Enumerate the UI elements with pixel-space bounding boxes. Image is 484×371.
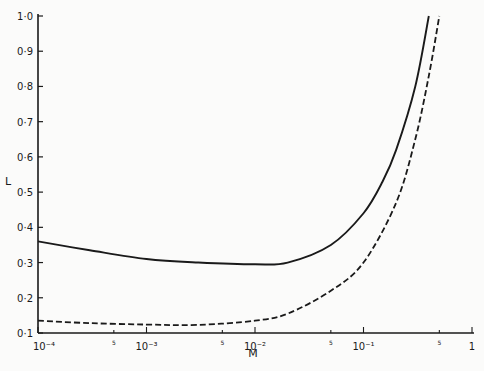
x-tick-label: 5	[437, 339, 441, 346]
line-chart: 0·10·20·30·40·50·60·70·80·91·0 10⁻⁴510⁻³…	[0, 0, 484, 371]
solid-curve	[38, 16, 429, 265]
curves	[38, 16, 439, 325]
y-axis-label: L	[5, 175, 12, 188]
y-tick-label: 1·0	[17, 11, 33, 22]
y-tick-label: 0·3	[17, 258, 33, 269]
axes	[38, 14, 474, 333]
x-tick-label: 1	[469, 341, 475, 352]
x-tick-label: 5	[112, 339, 116, 346]
dashed-curve	[38, 16, 439, 325]
y-tick-label: 0·7	[17, 117, 33, 128]
y-tick-label: 0·1	[17, 328, 33, 339]
y-tick-label: 0·2	[17, 293, 33, 304]
y-tick-label: 0·6	[17, 152, 33, 163]
x-tick-label: 10⁻⁴	[33, 341, 55, 352]
y-tick-label: 0·9	[17, 46, 33, 57]
x-tick-label: 10⁻³	[135, 341, 157, 352]
y-tick-label: 0·8	[17, 81, 33, 92]
x-axis-label: M	[248, 347, 258, 360]
x-tick-label: 5	[329, 339, 333, 346]
y-tick-label: 0·4	[17, 222, 33, 233]
x-tick-label: 10⁻¹	[352, 341, 374, 352]
y-axis-ticks: 0·10·20·30·40·50·60·70·80·91·0	[17, 11, 43, 339]
y-tick-label: 0·5	[17, 187, 33, 198]
x-tick-label: 5	[220, 339, 224, 346]
